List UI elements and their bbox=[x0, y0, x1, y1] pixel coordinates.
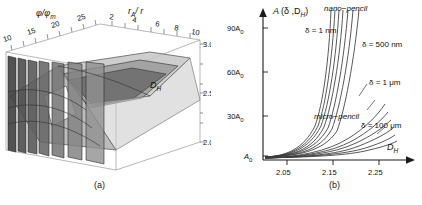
ytick-30a0: 30A0 bbox=[227, 112, 244, 123]
annotation-nano-pencil: nano−pencil bbox=[324, 4, 367, 13]
caption-b: (b) bbox=[329, 180, 340, 190]
surface-family bbox=[8, 52, 200, 164]
leader-delta-1um bbox=[359, 84, 367, 96]
figure-container: 10 15 20 25 2 4 6 8 10 3.0 2.5 2.0 bbox=[0, 0, 422, 205]
panel-b-line-plot: 90A0 60A0 30A0 A0 2.05 2.15 2.25 bbox=[211, 0, 422, 205]
phi-tick-15: 15 bbox=[26, 26, 37, 37]
surface-blade-3 bbox=[28, 60, 37, 154]
panel-a-svg: 10 15 20 25 2 4 6 8 10 3.0 2.5 2.0 bbox=[0, 0, 211, 178]
ytick-a0: A0 bbox=[243, 152, 253, 163]
y-axis-b bbox=[259, 8, 267, 160]
dh-tick-30: 3.0 bbox=[203, 40, 211, 49]
rar-tick-2: 2 bbox=[109, 12, 115, 22]
caption-a: (a) bbox=[94, 180, 105, 190]
annotation-delta-1-nm: δ = 1 nm bbox=[305, 26, 336, 35]
dh-tick-25: 2.5 bbox=[203, 89, 211, 98]
ytick-90a0: 90A0 bbox=[227, 24, 244, 35]
x-tick-labels-b: 2.05 2.15 2.25 bbox=[276, 168, 383, 177]
axis-label-a-delta-dh: A(δ ,DH) bbox=[272, 6, 308, 18]
y-ticks-b bbox=[263, 28, 268, 156]
xtick-205: 2.05 bbox=[276, 168, 291, 177]
annotation-delta-100-um: δ = 100 μm bbox=[361, 121, 401, 130]
phi-tick-20: 20 bbox=[50, 19, 61, 30]
axis-label-dh-b: DH bbox=[387, 142, 399, 154]
rar-tick-labels: 2 4 6 8 10 bbox=[109, 12, 201, 37]
leader-micro-pencil bbox=[367, 100, 375, 110]
x-ticks-b bbox=[287, 160, 379, 165]
phi-tick-10: 10 bbox=[2, 33, 13, 44]
surface-blade-1 bbox=[8, 56, 16, 152]
axis-label-phi: φ/φm bbox=[36, 8, 56, 20]
annotation-delta-500-nm: δ = 500 nm bbox=[362, 40, 402, 49]
y-tick-labels-b: 90A0 60A0 30A0 A0 bbox=[227, 24, 253, 163]
x-axis-arrow bbox=[406, 156, 415, 164]
phi-tick-25: 25 bbox=[76, 12, 87, 23]
surface-blade-5 bbox=[52, 62, 64, 158]
xtick-225: 2.25 bbox=[368, 168, 383, 177]
rar-tick-6: 6 bbox=[155, 19, 161, 29]
rar-tick-10: 10 bbox=[191, 27, 201, 37]
surface-blade-4 bbox=[39, 61, 49, 156]
axis-label-rar: rA/ r bbox=[128, 6, 144, 18]
dh-tick-labels: 3.0 2.5 2.0 bbox=[203, 40, 211, 147]
rar-tick-8: 8 bbox=[174, 23, 180, 33]
xtick-215: 2.15 bbox=[322, 168, 337, 177]
ytick-60a0: 60A0 bbox=[227, 68, 244, 79]
dh-tick-20: 2.0 bbox=[203, 138, 211, 147]
panel-a-surface-plot: 10 15 20 25 2 4 6 8 10 3.0 2.5 2.0 bbox=[0, 0, 211, 205]
surface-blade-7 bbox=[86, 62, 104, 164]
annotation-delta-1-um: δ = 1 μm bbox=[369, 78, 401, 87]
surface-blade-6 bbox=[68, 62, 82, 160]
annotation-micro-pencil: micro−pencil bbox=[314, 112, 359, 121]
y-axis-arrow bbox=[259, 8, 267, 17]
